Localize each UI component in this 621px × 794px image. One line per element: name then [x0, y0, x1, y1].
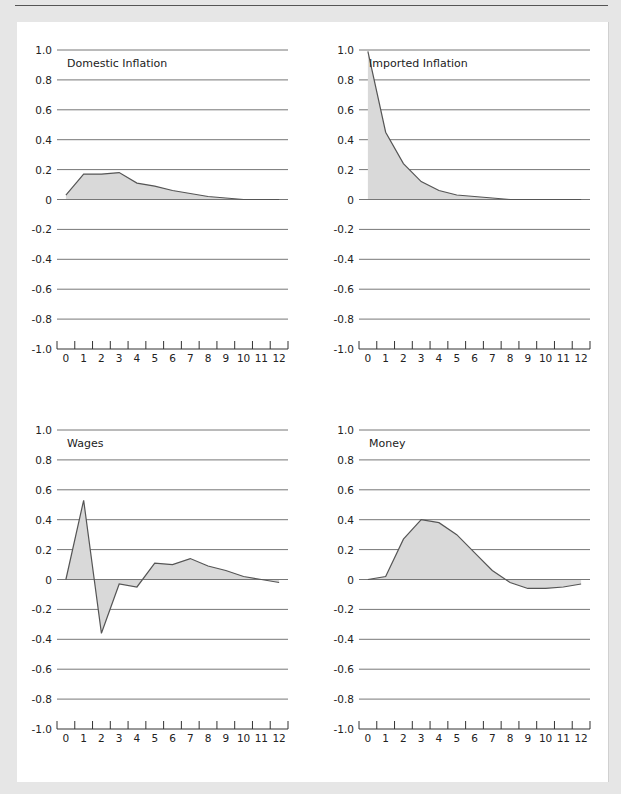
y-tick-label: -0.6 — [334, 663, 355, 675]
y-tick-label: 0.4 — [337, 514, 354, 526]
x-tick-label: 5 — [453, 352, 460, 364]
chart-imported-inflation: 1.00.80.60.40.20-0.2-0.4-0.6-0.8-1.00123… — [334, 44, 591, 364]
y-tick-label: -0.2 — [32, 603, 53, 615]
x-tick-label: 6 — [471, 732, 478, 744]
x-tick-label: 11 — [255, 732, 268, 744]
y-tick-label: 0.8 — [35, 74, 52, 86]
x-tick-label: 0 — [63, 352, 70, 364]
x-tick-label: 10 — [237, 352, 250, 364]
y-tick-label: 0 — [347, 194, 354, 206]
x-tick-label: 1 — [382, 352, 389, 364]
y-tick-label: 0 — [45, 574, 52, 586]
chart-title: Imported Inflation — [369, 57, 468, 70]
charts-canvas: 1.00.80.60.40.20-0.2-0.4-0.6-0.8-1.00123… — [0, 0, 621, 794]
y-tick-label: -0.6 — [334, 283, 355, 295]
x-tick-label: 11 — [557, 352, 570, 364]
x-tick-label: 6 — [471, 352, 478, 364]
y-tick-label: 0.8 — [337, 74, 354, 86]
x-tick-label: 10 — [539, 732, 552, 744]
x-tick-label: 8 — [507, 352, 514, 364]
x-tick-label: 1 — [382, 732, 389, 744]
y-tick-label: -0.8 — [334, 693, 355, 705]
x-tick-label: 4 — [134, 352, 141, 364]
x-tick-label: 8 — [205, 732, 212, 744]
y-tick-label: 0 — [45, 194, 52, 206]
y-tick-label: -1.0 — [334, 723, 355, 735]
y-tick-label: 0.2 — [337, 164, 354, 176]
y-tick-label: 0.8 — [35, 454, 52, 466]
x-tick-label: 7 — [187, 732, 194, 744]
y-tick-label: 0.4 — [35, 134, 52, 146]
x-tick-label: 12 — [272, 732, 285, 744]
y-tick-label: -0.8 — [32, 693, 53, 705]
x-tick-label: 2 — [98, 352, 105, 364]
x-tick-label: 9 — [524, 732, 531, 744]
x-tick-label: 2 — [98, 732, 105, 744]
x-tick-label: 1 — [80, 732, 87, 744]
x-tick-label: 5 — [151, 352, 158, 364]
x-tick-label: 3 — [116, 352, 123, 364]
x-tick-label: 12 — [574, 352, 587, 364]
chart-money: 1.00.80.60.40.20-0.2-0.4-0.6-0.8-1.00123… — [334, 424, 591, 744]
y-tick-label: -1.0 — [334, 343, 355, 355]
y-tick-label: 0.6 — [35, 484, 52, 496]
y-tick-label: 1.0 — [337, 44, 354, 56]
x-tick-label: 0 — [63, 732, 70, 744]
x-tick-label: 7 — [489, 352, 496, 364]
y-tick-label: 0.8 — [337, 454, 354, 466]
y-tick-label: -0.6 — [32, 663, 53, 675]
x-tick-label: 4 — [436, 732, 443, 744]
y-tick-label: 0.6 — [35, 104, 52, 116]
area-fill — [66, 500, 279, 633]
x-tick-label: 12 — [574, 732, 587, 744]
y-tick-label: -0.2 — [32, 223, 53, 235]
x-tick-label: 3 — [418, 732, 425, 744]
y-tick-label: -0.8 — [334, 313, 355, 325]
x-tick-label: 0 — [365, 352, 372, 364]
x-tick-label: 4 — [134, 732, 141, 744]
chart-title: Money — [369, 437, 406, 450]
x-tick-label: 1 — [80, 352, 87, 364]
y-tick-label: 1.0 — [35, 44, 52, 56]
chart-wages: 1.00.80.60.40.20-0.2-0.4-0.6-0.8-1.00123… — [32, 424, 289, 744]
x-tick-label: 9 — [524, 352, 531, 364]
y-tick-label: -0.2 — [334, 223, 355, 235]
x-tick-label: 6 — [169, 732, 176, 744]
y-tick-label: 0.4 — [337, 134, 354, 146]
y-tick-label: 0.4 — [35, 514, 52, 526]
y-tick-label: -0.8 — [32, 313, 53, 325]
x-tick-label: 9 — [222, 352, 229, 364]
y-tick-label: -0.4 — [334, 253, 355, 265]
chart-title: Wages — [67, 437, 104, 450]
x-tick-label: 7 — [187, 352, 194, 364]
x-tick-label: 7 — [489, 732, 496, 744]
x-tick-label: 2 — [400, 732, 407, 744]
x-tick-label: 2 — [400, 352, 407, 364]
x-tick-label: 6 — [169, 352, 176, 364]
x-tick-label: 9 — [222, 732, 229, 744]
y-tick-label: -1.0 — [32, 723, 53, 735]
x-tick-label: 10 — [539, 352, 552, 364]
x-tick-label: 11 — [255, 352, 268, 364]
y-tick-label: -0.6 — [32, 283, 53, 295]
x-tick-label: 8 — [507, 732, 514, 744]
y-tick-label: 1.0 — [35, 424, 52, 436]
y-tick-label: -0.4 — [32, 253, 53, 265]
x-tick-label: 5 — [453, 732, 460, 744]
x-tick-label: 4 — [436, 352, 443, 364]
y-tick-label: -0.4 — [32, 633, 53, 645]
y-tick-label: 0.2 — [35, 544, 52, 556]
x-tick-label: 3 — [418, 352, 425, 364]
x-tick-label: 3 — [116, 732, 123, 744]
x-tick-label: 12 — [272, 352, 285, 364]
y-tick-label: 0 — [347, 574, 354, 586]
x-tick-label: 11 — [557, 732, 570, 744]
y-tick-label: -0.2 — [334, 603, 355, 615]
area-fill — [66, 173, 279, 200]
x-tick-label: 0 — [365, 732, 372, 744]
chart-domestic-inflation: 1.00.80.60.40.20-0.2-0.4-0.6-0.8-1.00123… — [32, 44, 289, 364]
y-tick-label: -0.4 — [334, 633, 355, 645]
y-tick-label: -1.0 — [32, 343, 53, 355]
area-fill — [368, 520, 581, 589]
y-tick-label: 0.2 — [337, 544, 354, 556]
